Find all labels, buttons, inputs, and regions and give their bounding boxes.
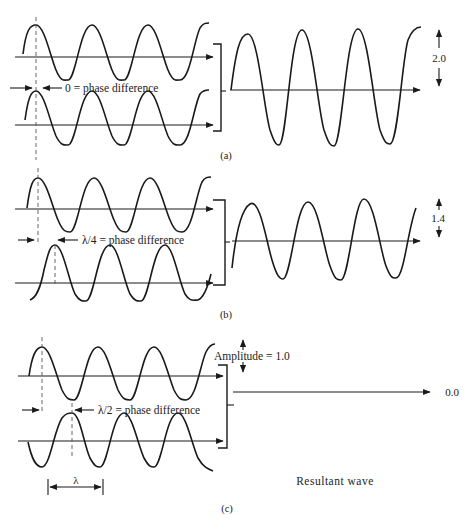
phase-difference-label: λ/2 = phase difference	[98, 404, 200, 417]
sine-wave	[28, 413, 213, 471]
sine-wave	[27, 177, 211, 232]
panel-a-resultant-wave	[230, 27, 421, 146]
sum-bracket	[213, 44, 221, 131]
phase-difference-label: 0 = phase difference	[65, 82, 158, 95]
sum-bracket	[218, 365, 227, 448]
sine-wave	[29, 344, 215, 400]
panel-c: λ/2 = phase difference 0.0 Amplitude = 1…	[18, 337, 459, 515]
wavelength-marker: λ	[48, 474, 103, 495]
sine-wave	[30, 245, 211, 301]
panel-b: λ/4 = phase difference 1.4 (b)	[15, 168, 445, 321]
panel-caption: (c)	[221, 503, 233, 515]
resultant-amplitude-label: 1.4	[431, 212, 445, 224]
interference-diagram: 0 = phase difference 2.0 (a) λ/4 = phase…	[0, 0, 472, 527]
panel-a-wave-2	[15, 90, 213, 145]
panel-a: 0 = phase difference 2.0 (a)	[10, 17, 446, 162]
resultant-amplitude-label: 0.0	[445, 386, 459, 398]
panel-caption: (b)	[220, 309, 233, 321]
wavelength-label: λ	[73, 474, 79, 486]
panel-caption: (a)	[220, 150, 232, 162]
amplitude-label: Amplitude = 1.0	[214, 350, 290, 363]
panel-c-wave-1	[18, 344, 223, 400]
sine-wave	[23, 23, 209, 80]
panel-b-resultant-wave	[232, 199, 420, 280]
resultant-sine-wave	[231, 27, 421, 146]
sum-bracket	[213, 200, 225, 285]
resultant-wave-caption: Resultant wave	[296, 475, 374, 487]
panel-a-wave-1	[15, 23, 213, 80]
sine-wave	[25, 90, 209, 145]
resultant-sine-wave	[232, 199, 416, 280]
resultant-amplitude-label: 2.0	[432, 52, 446, 64]
panel-b-wave-1	[15, 177, 213, 232]
panel-b-wave-2	[15, 245, 213, 301]
panel-c-wave-2	[18, 413, 223, 471]
phase-difference-label: λ/4 = phase difference	[82, 234, 184, 247]
